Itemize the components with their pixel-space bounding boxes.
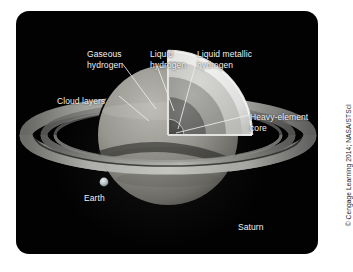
label-liquid-hydrogen: Liquid hydrogen (150, 49, 186, 70)
label-cloud-layers: Cloud layers (57, 96, 105, 107)
credit-line: © Cengage Learning 2014; NASA/STScI (345, 104, 353, 226)
figure-panel: Gaseous hydrogen Liquid hydrogen Liquid … (16, 11, 318, 254)
label-liquid-metallic-hydrogen: Liquid metallic hydrogen (197, 49, 252, 70)
label-heavy-element-core: Heavy-element core (250, 112, 308, 133)
earth-dot (100, 178, 109, 187)
label-earth: Earth (84, 193, 105, 204)
label-gaseous-hydrogen: Gaseous hydrogen (87, 49, 123, 70)
label-saturn: Saturn (238, 222, 264, 233)
